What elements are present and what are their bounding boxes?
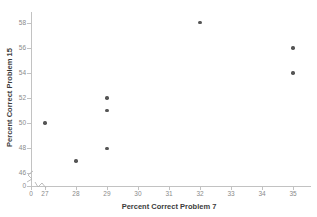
data-point [105, 147, 108, 150]
y-tick-mark [27, 148, 31, 149]
x-tick-label: 31 [156, 191, 182, 198]
y-axis-line [31, 12, 32, 186]
y-tick-mark [27, 123, 31, 124]
x-axis-break-icon [33, 180, 49, 193]
data-point [43, 121, 46, 124]
y-tick-mark [27, 23, 31, 24]
x-tick-label: 34 [249, 191, 275, 198]
y-tick-mark [27, 98, 31, 99]
scatter-chart: 046485052545658 0272829303132333435 Perc… [0, 0, 317, 217]
data-point [291, 71, 294, 74]
x-tick-label: 33 [218, 191, 244, 198]
data-point [291, 46, 294, 49]
y-tick-mark [27, 48, 31, 49]
plot-area [31, 12, 307, 186]
x-axis-title: Percent Correct Problem 7 [31, 202, 307, 211]
x-tick-label: 35 [280, 191, 306, 198]
data-point [105, 96, 108, 99]
x-tick-label: 30 [125, 191, 151, 198]
x-tick-label: 32 [187, 191, 213, 198]
y-tick-mark [27, 73, 31, 74]
x-tick-label: 28 [63, 191, 89, 198]
data-point [105, 109, 108, 112]
data-point [74, 159, 77, 162]
x-tick-label: 29 [94, 191, 120, 198]
y-axis-title: Percent Correct Problem 15 [5, 5, 14, 191]
